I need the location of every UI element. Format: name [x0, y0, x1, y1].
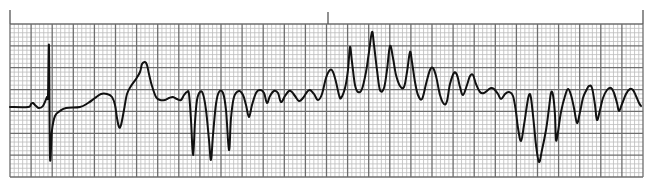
ecg-rhythm-strip [0, 0, 653, 192]
